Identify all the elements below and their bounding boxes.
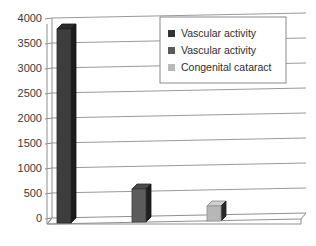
ytick-3000 — [45, 68, 52, 69]
ytick-500 — [45, 193, 52, 194]
gridline-500 — [52, 188, 306, 193]
bar-2-face — [132, 189, 146, 222]
ytick-label-1000: 1000 — [18, 162, 42, 174]
ytick-label-2000: 2000 — [18, 112, 42, 124]
legend-swatch-3 — [168, 64, 175, 71]
legend-item-1[interactable]: Vascular activity — [168, 27, 257, 39]
ytick-label-1500: 1500 — [18, 137, 42, 149]
y-axis-tick-labels: 4000 3500 3000 2500 2000 1500 1000 500 0 — [18, 12, 42, 224]
ytick-label-3500: 3500 — [18, 37, 42, 49]
chart-legend[interactable]: Vascular activity Vascular activity Cong… — [160, 17, 286, 83]
legend-label-3: Congenital cataract — [181, 61, 272, 73]
legend-item-2[interactable]: Vascular activity — [168, 44, 257, 56]
gridline-1500 — [52, 138, 306, 143]
bar-1-face — [57, 29, 71, 223]
legend-swatch-1 — [168, 30, 175, 37]
ytick-1500 — [45, 143, 52, 144]
ytick-4000 — [45, 18, 52, 19]
ytick-label-2500: 2500 — [18, 87, 42, 99]
ytick-label-3000: 3000 — [18, 62, 42, 74]
ytick-label-4000: 4000 — [18, 12, 42, 24]
y-axis — [45, 18, 52, 224]
legend-swatch-2 — [168, 47, 175, 54]
ytick-3500 — [45, 43, 52, 44]
legend-label-2: Vascular activity — [181, 44, 257, 56]
bar-1-side — [71, 24, 76, 223]
chart-canvas: 4000 3500 3000 2500 2000 1500 1000 500 0 — [0, 0, 316, 246]
legend-label-1: Vascular activity — [181, 27, 257, 39]
gridline-1000 — [52, 163, 306, 168]
ytick-label-500: 500 — [24, 187, 42, 199]
ytick-2500 — [45, 93, 52, 94]
ytick-label-0: 0 — [36, 212, 42, 224]
bar-3[interactable] — [207, 201, 226, 221]
bar-1[interactable] — [57, 24, 76, 223]
floor-plane — [47, 213, 306, 224]
gridline-2500 — [52, 88, 306, 93]
gridline-2000 — [52, 113, 306, 118]
bar-chart: 4000 3500 3000 2500 2000 1500 1000 500 0 — [0, 0, 316, 246]
ytick-2000 — [45, 118, 52, 119]
ytick-1000 — [45, 168, 52, 169]
bar-2-side — [146, 184, 151, 222]
legend-item-3[interactable]: Congenital cataract — [168, 61, 272, 73]
bar-2[interactable] — [132, 184, 151, 222]
bar-3-face — [207, 206, 221, 221]
